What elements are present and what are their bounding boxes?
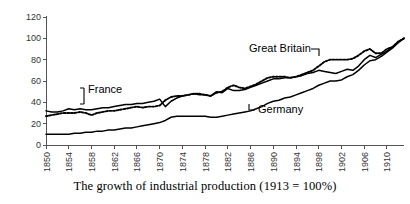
x-tick-label: 1886 bbox=[246, 152, 256, 172]
chart-caption: The growth of industrial production (191… bbox=[0, 179, 410, 194]
y-tick-label: 80 bbox=[31, 55, 41, 65]
leader-line-britain bbox=[311, 49, 319, 56]
industrial-production-line-chart: 020406080100120 185018541858186218661870… bbox=[0, 0, 410, 204]
x-tick-label: 1882 bbox=[223, 152, 233, 172]
x-tick-label: 1870 bbox=[155, 152, 165, 172]
series-label-germany: Germany bbox=[258, 103, 304, 115]
chart-container: 020406080100120 185018541858186218661870… bbox=[0, 0, 410, 204]
x-tick-label: 1878 bbox=[201, 152, 211, 172]
y-tick-label: 60 bbox=[31, 76, 41, 86]
y-tick-label: 20 bbox=[31, 119, 41, 129]
x-tick-label: 1874 bbox=[178, 152, 188, 172]
x-tick-label: 1906 bbox=[360, 152, 370, 172]
series-line-great-britain bbox=[46, 38, 404, 116]
x-tick-label: 1862 bbox=[110, 152, 120, 172]
x-tick-label: 1850 bbox=[42, 152, 52, 172]
x-tick-label: 1898 bbox=[314, 152, 324, 172]
x-tick-label: 1910 bbox=[382, 152, 392, 172]
x-tick-label: 1902 bbox=[337, 152, 347, 172]
x-tick-label: 1894 bbox=[292, 152, 302, 172]
y-tick-label: 120 bbox=[26, 12, 41, 22]
x-tick-label: 1890 bbox=[269, 152, 279, 172]
x-tick-label: 1866 bbox=[132, 152, 142, 172]
x-tick-label: 1854 bbox=[64, 152, 74, 172]
leader-line-france bbox=[80, 88, 84, 104]
y-axis: 020406080100120 bbox=[26, 12, 46, 150]
series-label-france: France bbox=[88, 83, 122, 95]
x-axis: 1850185418581862186618701874187818821886… bbox=[42, 145, 405, 172]
series-label-britain: Great Britain bbox=[249, 42, 311, 54]
y-tick-label: 40 bbox=[31, 97, 41, 107]
y-tick-label: 0 bbox=[36, 140, 41, 150]
y-tick-label: 100 bbox=[26, 33, 41, 43]
x-tick-label: 1858 bbox=[87, 152, 97, 172]
